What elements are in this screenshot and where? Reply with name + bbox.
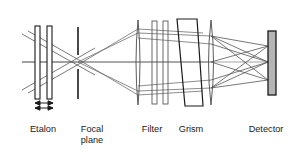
etalon-plate-1 <box>35 26 40 99</box>
optics-canvas: Etalon Focal plane Filter Grism Detector <box>0 0 302 152</box>
label-grism: Grism <box>179 124 204 134</box>
label-focal-plane-line1: Focal <box>81 124 103 134</box>
etalon-adjust-arrow-icon <box>35 101 53 110</box>
label-filter: Filter <box>142 124 162 134</box>
label-focal-plane-line2: plane <box>81 135 103 145</box>
detector-element <box>268 31 276 95</box>
label-detector: Detector <box>249 124 284 134</box>
etalon-element <box>35 26 52 99</box>
ray-bundle-diverging <box>78 29 138 95</box>
etalon-plate-2 <box>47 26 52 99</box>
collimator-lens-element <box>136 20 140 105</box>
filter-plate-2 <box>163 21 168 104</box>
optical-diagram: Etalon Focal plane Filter Grism Detector <box>0 0 302 152</box>
label-etalon: Etalon <box>30 124 56 134</box>
